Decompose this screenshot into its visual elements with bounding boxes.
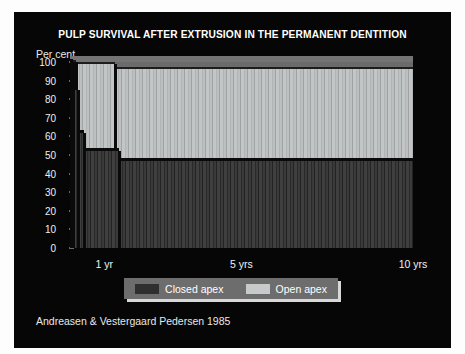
series-step-segment [119,158,413,248]
y-axis-tick-label: 50 [45,150,56,161]
series-closed-apex [70,62,413,248]
x-axis-tick-label: 1 yr [96,258,114,270]
y-axis-tick-label: 30 [45,187,56,198]
legend-label-open-apex: Open apex [276,283,327,295]
series-step-riser [118,151,121,248]
legend-swatch-closed-apex [135,284,159,294]
series-step-riser [83,133,86,248]
series-step-segment [84,148,118,248]
legend-item-open-apex: Open apex [246,283,327,295]
y-axis-tick-label: 60 [45,131,56,142]
plot-area [70,56,413,248]
chart-legend: Closed apex Open apex [124,278,338,299]
x-axis-tick-label: 5 yrs [230,258,253,270]
y-axis-tick-label: 100 [39,57,56,68]
y-axis-tick-label: 80 [45,94,56,105]
legend-item-closed-apex: Closed apex [135,283,223,295]
y-axis-tick-label: 90 [45,75,56,86]
y-axis: 0102030405060708090100 [20,56,68,248]
source-caption: Andreasen & Vestergaard Pedersen 1985 [36,315,230,327]
y-axis-tick-label: 70 [45,112,56,123]
page-title: PULP SURVIVAL AFTER EXTRUSION IN THE PER… [14,29,451,40]
x-axis: 1 yr5 yrs10 yrs [70,250,413,272]
screenshot-root: PULP SURVIVAL AFTER EXTRUSION IN THE PER… [0,0,465,354]
y-axis-tick-label: 0 [50,243,56,254]
y-axis-tick-label: 20 [45,205,56,216]
y-axis-tick-label: 40 [45,168,56,179]
legend-label-closed-apex: Closed apex [165,283,223,295]
series-left-edge [70,62,73,248]
legend-swatch-open-apex [246,284,270,294]
slide-panel: PULP SURVIVAL AFTER EXTRUSION IN THE PER… [14,12,451,348]
x-axis-tick-label: 10 yrs [399,258,428,270]
y-axis-tick-label: 10 [45,224,56,235]
series-step-riser [77,90,80,248]
